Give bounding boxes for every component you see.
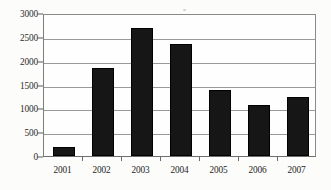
x-axis-tick — [121, 157, 122, 161]
bars-layer — [44, 14, 315, 156]
x-axis-ticks — [43, 157, 316, 162]
x-axis-tick — [238, 157, 239, 161]
x-axis-tick — [277, 157, 278, 161]
x-axis-tick — [82, 157, 83, 161]
x-axis-tick-label: 2003 — [131, 165, 149, 175]
bar-2005 — [209, 90, 231, 156]
x-axis-tick-label: 2001 — [53, 165, 71, 175]
bar-2007 — [287, 97, 309, 156]
bar-2003 — [131, 28, 153, 156]
x-axis-tick-label: 2002 — [92, 165, 110, 175]
scan-artifact — [183, 9, 186, 11]
x-axis-tick-label: 2005 — [209, 165, 227, 175]
bar-chart: 050010001500200025003000 200120022003200… — [0, 0, 331, 190]
x-axis-tick — [160, 157, 161, 161]
bar-2002 — [92, 68, 114, 156]
x-axis-tick-label: 2006 — [248, 165, 266, 175]
bar-2001 — [53, 147, 75, 156]
y-axis-ticks — [0, 14, 46, 157]
x-axis-labels: 2001200220032004200520062007 — [43, 165, 316, 181]
x-axis-tick — [199, 157, 200, 161]
bar-2004 — [170, 44, 192, 156]
bar-2006 — [248, 105, 270, 156]
x-axis-tick-label: 2007 — [287, 165, 305, 175]
x-axis-tick-label: 2004 — [170, 165, 188, 175]
